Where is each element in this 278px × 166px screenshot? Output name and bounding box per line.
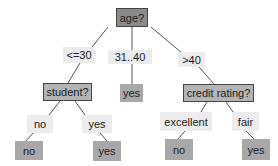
edge-student-no <box>49 101 60 115</box>
edge-label-31-40: 31..40 <box>108 50 152 64</box>
edge-label-le30: <=30 <box>63 47 95 63</box>
edge-label-student-yes: yes <box>82 115 112 133</box>
leaf-node-student-no: no <box>15 141 43 160</box>
leaf-node-credit-excellent-no: no <box>165 139 193 160</box>
leaf-node-credit-fair-yes: yes <box>242 139 270 160</box>
edge-root-le30 <box>92 27 108 47</box>
edge-label-credit-excellent: excellent <box>160 112 212 131</box>
edge-label-student-no: no <box>27 115 53 133</box>
edge-credit-excellent <box>201 102 207 112</box>
edge-student-yes <box>75 101 85 115</box>
edge-credit-fair <box>226 102 233 112</box>
edge-root-gt40 <box>151 27 182 53</box>
edge-gt40-credit <box>199 67 214 84</box>
decision-node-credit-rating: credit rating? <box>183 84 254 102</box>
edge-yes-leaf <box>100 133 107 141</box>
edge-no-leaf <box>26 133 33 141</box>
edge-label-gt40: >40 <box>178 52 205 67</box>
edge-le30-student <box>68 63 80 83</box>
decision-node-student: student? <box>43 83 92 101</box>
edge-label-credit-fair: fair <box>232 112 259 131</box>
leaf-node-student-yes: yes <box>93 141 121 161</box>
leaf-node-yes-middle: yes <box>120 84 143 102</box>
edge-excellent-leaf <box>178 131 185 139</box>
edge-fair-leaf <box>246 131 254 139</box>
root-node-age: age? <box>116 8 148 27</box>
